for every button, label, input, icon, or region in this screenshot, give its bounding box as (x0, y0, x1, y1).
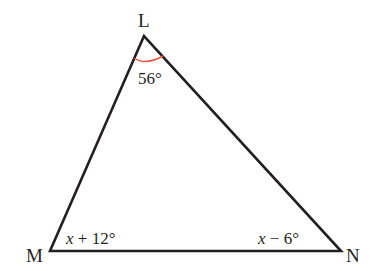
vertex-label-l: L (138, 10, 150, 31)
angle-m-expression: + 12° (74, 229, 116, 248)
angle-label-n: x − 6° (257, 229, 299, 248)
vertex-label-m: M (26, 245, 43, 266)
vertex-label-n: N (346, 245, 360, 266)
angle-label-l: 56° (138, 69, 162, 88)
angle-n-expression: − 6° (266, 229, 299, 248)
triangle-diagram: L M N 56° x + 12° x − 6° (0, 0, 380, 271)
triangle-lmn (50, 36, 341, 251)
angle-label-m: x + 12° (65, 229, 115, 248)
angle-arc-l (134, 56, 163, 62)
